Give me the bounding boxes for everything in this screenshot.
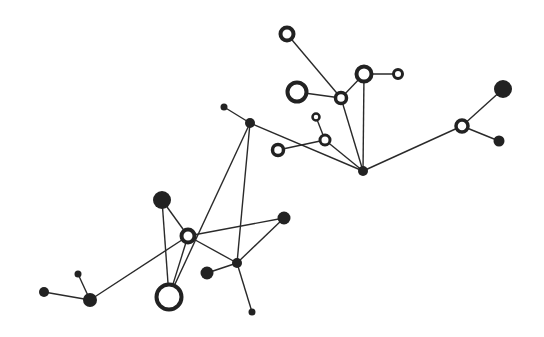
edge-n9-n10 bbox=[363, 126, 462, 171]
edge-n18-n21 bbox=[237, 263, 252, 312]
hollow-node-n3 bbox=[336, 93, 347, 104]
hollow-node-n4 bbox=[357, 67, 372, 82]
hollow-node-n7 bbox=[320, 135, 330, 145]
hollow-node-n16 bbox=[182, 230, 195, 243]
hollow-node-n1 bbox=[281, 28, 294, 41]
edge-n16-n17 bbox=[188, 218, 284, 236]
edge-n22-n23 bbox=[44, 292, 90, 300]
hollow-node-n5 bbox=[394, 70, 403, 79]
hollow-node-n20 bbox=[157, 285, 182, 310]
hollow-node-n2 bbox=[288, 83, 307, 102]
filled-node-n11 bbox=[494, 80, 512, 98]
node-layer bbox=[39, 28, 512, 316]
hollow-node-n10 bbox=[456, 120, 468, 132]
filled-node-n24 bbox=[75, 271, 82, 278]
filled-node-n9 bbox=[358, 166, 368, 176]
filled-node-n12 bbox=[494, 136, 505, 147]
edge-n14-n18 bbox=[237, 123, 250, 263]
edge-n17-n18 bbox=[237, 218, 284, 263]
filled-node-n22 bbox=[83, 293, 97, 307]
edge-n4-n9 bbox=[363, 74, 364, 171]
filled-node-n18 bbox=[232, 258, 242, 268]
filled-node-n13 bbox=[221, 104, 228, 111]
hollow-node-n6 bbox=[313, 114, 320, 121]
filled-node-n17 bbox=[278, 212, 291, 225]
filled-node-n23 bbox=[39, 287, 49, 297]
edge-n14-n9 bbox=[250, 123, 363, 171]
filled-node-n15 bbox=[153, 191, 171, 209]
network-diagram bbox=[0, 0, 544, 337]
edge-n7-n9 bbox=[325, 140, 363, 171]
edge-n3-n9 bbox=[341, 98, 363, 171]
hollow-node-n8 bbox=[273, 145, 284, 156]
filled-node-n14 bbox=[245, 118, 255, 128]
filled-node-n19 bbox=[201, 267, 214, 280]
filled-node-n21 bbox=[249, 309, 256, 316]
edge-layer bbox=[44, 34, 503, 312]
